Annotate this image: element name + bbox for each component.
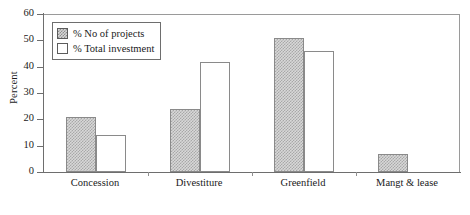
legend-item: % Total investment [57, 41, 154, 56]
bar-group [356, 14, 460, 172]
bar [274, 38, 304, 172]
legend-label: % No of projects [73, 28, 144, 39]
y-tick [37, 67, 43, 68]
x-axis-labels: ConcessionDivestitureGreenfieldMangt & l… [43, 176, 461, 196]
y-tick-label: 40 [10, 61, 34, 71]
bar-chart: Percent 6050403020100 ConcessionDivestit… [0, 0, 470, 215]
bar-group [148, 14, 252, 172]
x-tick-label: Greenfield [251, 176, 355, 189]
legend: % No of projects% Total investment [52, 22, 161, 60]
white-swatch [57, 43, 68, 54]
y-tick-label: 0 [10, 166, 34, 176]
y-tick [37, 93, 43, 94]
bar [378, 154, 408, 172]
y-tick [37, 119, 43, 120]
y-tick-label: 20 [10, 113, 34, 123]
x-tick-label: Concession [43, 176, 147, 189]
x-tick-label: Mangt & lease [355, 176, 459, 189]
bar [66, 117, 96, 172]
legend-item: % No of projects [57, 26, 154, 41]
bar [170, 109, 200, 172]
y-tick-label: 30 [10, 87, 34, 97]
y-tick [37, 40, 43, 41]
y-tick-label: 10 [10, 140, 34, 150]
bar [96, 135, 126, 172]
bar-group [252, 14, 356, 172]
y-tick [37, 14, 43, 15]
y-tick-label: 50 [10, 34, 34, 44]
y-tick [37, 172, 43, 173]
y-tick-label: 60 [10, 8, 34, 18]
bar [200, 62, 230, 172]
legend-label: % Total investment [73, 43, 154, 54]
hatched-swatch [57, 28, 68, 39]
y-tick [37, 146, 43, 147]
x-tick-label: Divestiture [147, 176, 251, 189]
bar [304, 51, 334, 172]
